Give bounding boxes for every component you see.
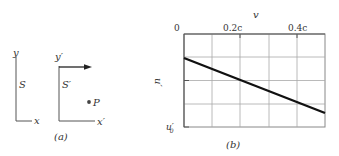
s-y-label: y (12, 47, 19, 58)
y-bottom-label: u′0 (166, 122, 174, 134)
x-tick-0-4c: 0.4c (288, 23, 307, 33)
s-prime-frame-label: S′ (62, 79, 72, 90)
panel-a: y S x y′ S′ x′ P (a) (12, 47, 106, 142)
x-tick-0: 0 (174, 23, 180, 33)
grid (184, 34, 325, 127)
s-prime-y-label: y′ (54, 51, 64, 62)
point-p-dot (87, 100, 91, 104)
x-tick-0-2c: 0.2c (223, 23, 242, 33)
velocity-arrow-head-icon (84, 64, 92, 69)
frame-s-prime: y′ S′ x′ P (54, 51, 106, 127)
point-p-label: P (92, 97, 100, 108)
y-axis-title: u′ (153, 78, 164, 87)
panel-b-caption: (b) (226, 139, 240, 150)
x-axis-title: v (253, 9, 259, 20)
frame-s: y S x (12, 47, 40, 126)
relativity-diagram: y S x y′ S′ x′ P (a) v 0 0.2c 0.4c (0, 0, 339, 156)
s-frame-label: S (19, 79, 26, 90)
panel-a-caption: (a) (54, 131, 68, 142)
s-prime-x-label: x′ (97, 116, 106, 127)
s-x-label: x (34, 115, 40, 126)
data-line (184, 58, 325, 113)
panel-b: v 0 0.2c 0.4c u′ u′0 (153, 9, 325, 150)
